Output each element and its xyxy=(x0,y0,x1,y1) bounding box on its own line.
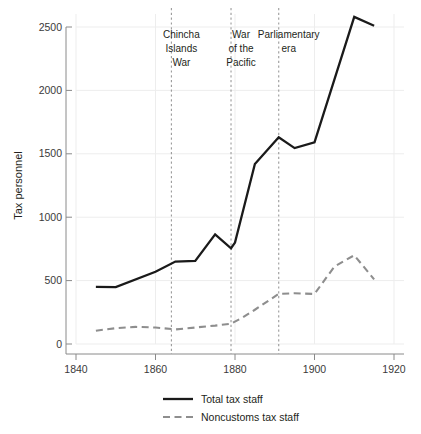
x-tick-label: 1840 xyxy=(64,363,88,375)
y-tick-label: 2500 xyxy=(39,21,63,33)
y-axis-title: Tax personnel xyxy=(12,151,24,220)
x-tick-label: 1880 xyxy=(223,363,247,375)
event-annotation-label: Pacific xyxy=(226,57,255,68)
event-annotation-label: War xyxy=(172,57,191,68)
event-annotation-label: War xyxy=(232,29,251,40)
chart-canvas: 05001000150020002500 1840186018801900192… xyxy=(0,0,421,434)
y-tick-label: 1500 xyxy=(39,147,63,159)
event-annotation-label: of the xyxy=(229,43,254,54)
x-tick-label: 1920 xyxy=(382,363,406,375)
event-annotation-label: Parliamentary xyxy=(258,29,320,40)
x-tick-label: 1900 xyxy=(303,363,327,375)
event-annotation-label: era xyxy=(281,43,296,54)
legend-label-2: Noncustoms tax staff xyxy=(201,411,299,423)
event-annotation-label: Islands xyxy=(166,43,198,54)
y-tick-label: 0 xyxy=(56,338,62,350)
legend-label-1: Total tax staff xyxy=(201,393,263,405)
y-tick-label: 2000 xyxy=(39,84,63,96)
tax-personnel-line-chart: 05001000150020002500 1840186018801900192… xyxy=(0,0,421,434)
event-annotation-label: Chincha xyxy=(163,29,200,40)
y-tick-label: 500 xyxy=(44,274,62,286)
y-tick-label: 1000 xyxy=(39,211,63,223)
x-tick-label: 1860 xyxy=(144,363,168,375)
